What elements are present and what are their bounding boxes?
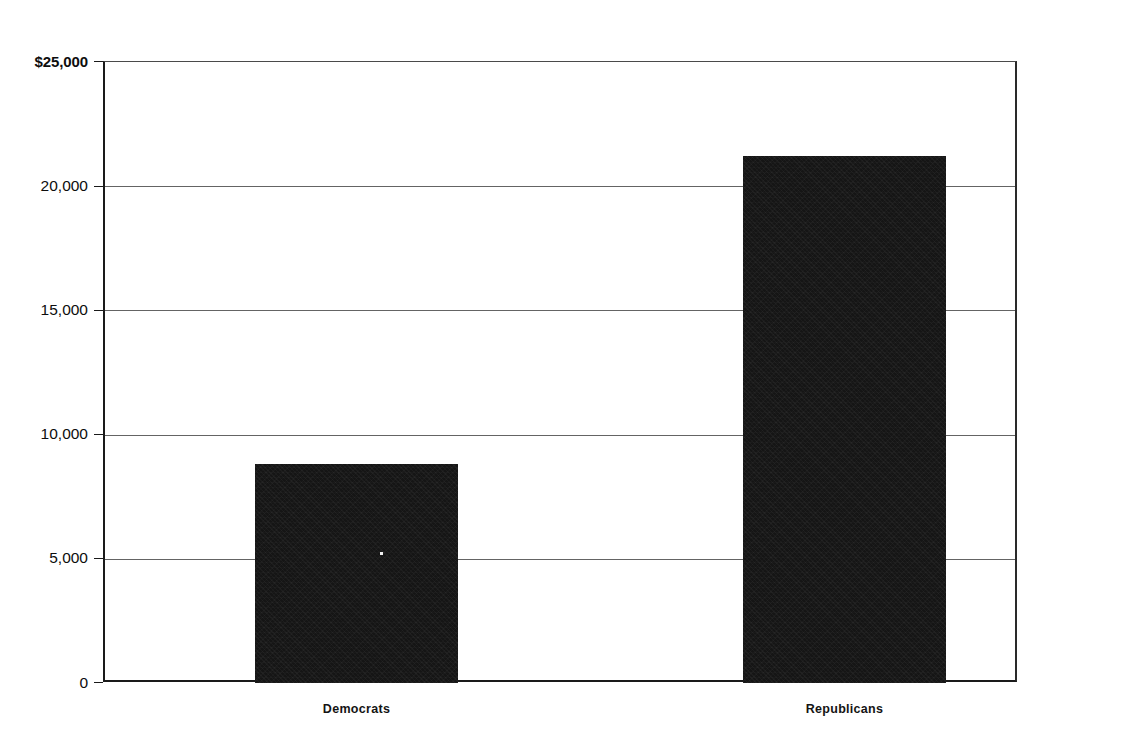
y-axis-tick-20000: [94, 186, 103, 187]
y-axis-label-10000: 10,000: [0, 426, 88, 442]
bar-chart: $25,000 20,000 15,000 10,000 5,000 0 Dem…: [0, 0, 1122, 730]
y-axis-tick-5000: [94, 558, 103, 559]
bar-republicans[interactable]: [743, 156, 946, 683]
y-axis-label-25000: $25,000: [0, 54, 88, 69]
bar-speckle: [380, 552, 383, 555]
y-axis-tick-0: [94, 682, 103, 683]
y-axis-label-5000: 5,000: [0, 550, 88, 566]
x-axis-label-democrats: Democrats: [255, 703, 458, 716]
y-axis-tick-15000: [94, 310, 103, 311]
bar-democrats[interactable]: [255, 464, 458, 683]
y-axis-tick-25000: [94, 61, 103, 62]
y-axis-label-20000: 20,000: [0, 178, 88, 194]
x-axis-label-republicans: Republicans: [743, 703, 946, 716]
y-axis-tick-10000: [94, 434, 103, 435]
y-axis-label-0: 0: [0, 675, 88, 691]
plot-area: [103, 61, 1017, 682]
y-axis-label-15000: 15,000: [0, 302, 88, 318]
